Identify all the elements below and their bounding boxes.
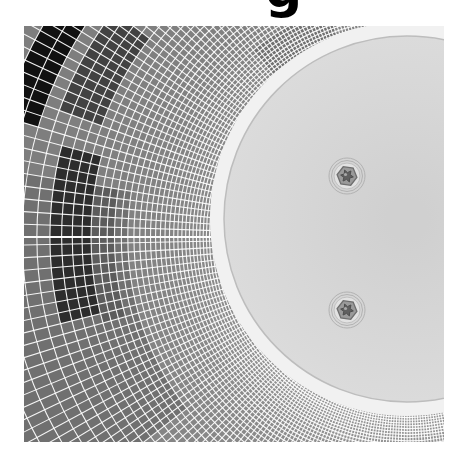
hub-mesh-image <box>24 26 444 442</box>
figure-window: g <box>0 0 460 464</box>
title-strip: g <box>0 0 460 20</box>
figure-title-fragment: g <box>265 0 302 19</box>
